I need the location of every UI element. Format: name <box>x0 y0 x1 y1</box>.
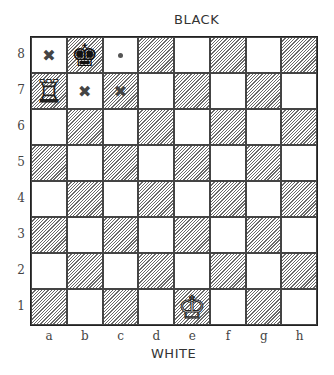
black-side-label: BLACK <box>174 12 219 27</box>
square-b2 <box>67 253 103 289</box>
square-e8 <box>174 37 210 73</box>
square-d6 <box>138 109 174 145</box>
square-f5 <box>210 145 246 181</box>
square-e2 <box>174 253 210 289</box>
rank-label-6: 6 <box>16 119 26 133</box>
square-c1 <box>103 289 139 325</box>
file-label-e: e <box>174 329 210 343</box>
square-d2 <box>138 253 174 289</box>
square-f4 <box>210 181 246 217</box>
square-c8 <box>103 37 139 73</box>
white-king-icon: ♔ <box>178 292 206 323</box>
square-g7 <box>246 73 282 109</box>
cross-marker-icon: ✖ <box>78 82 91 101</box>
square-d1 <box>138 289 174 325</box>
rank-label-5: 5 <box>16 155 26 169</box>
rank-label-2: 2 <box>16 263 26 277</box>
file-label-c: c <box>103 329 139 343</box>
file-label-f: f <box>210 329 246 343</box>
square-f1 <box>210 289 246 325</box>
square-c5 <box>103 145 139 181</box>
square-b8: ♚ <box>67 37 103 73</box>
chess-board: ✖♚♖✖✖♔ <box>30 36 318 326</box>
square-e5 <box>174 145 210 181</box>
rank-label-8: 8 <box>16 47 26 61</box>
square-c4 <box>103 181 139 217</box>
file-label-g: g <box>246 329 282 343</box>
square-h1 <box>281 289 317 325</box>
square-d4 <box>138 181 174 217</box>
square-a1 <box>31 289 67 325</box>
square-h8 <box>281 37 317 73</box>
file-label-b: b <box>67 329 103 343</box>
file-label-h: h <box>282 329 318 343</box>
cross-marker-icon: ✖ <box>42 46 55 65</box>
square-f6 <box>210 109 246 145</box>
square-a2 <box>31 253 67 289</box>
square-f3 <box>210 217 246 253</box>
square-b1 <box>67 289 103 325</box>
square-e1: ♔ <box>174 289 210 325</box>
file-label-a: a <box>31 329 67 343</box>
square-c3 <box>103 217 139 253</box>
square-g6 <box>246 109 282 145</box>
square-g1 <box>246 289 282 325</box>
square-g5 <box>246 145 282 181</box>
square-e6 <box>174 109 210 145</box>
square-h3 <box>281 217 317 253</box>
square-g2 <box>246 253 282 289</box>
square-h7 <box>281 73 317 109</box>
white-side-label: WHITE <box>151 346 196 361</box>
rank-label-7: 7 <box>16 83 26 97</box>
square-e4 <box>174 181 210 217</box>
square-h5 <box>281 145 317 181</box>
square-c6 <box>103 109 139 145</box>
square-f8 <box>210 37 246 73</box>
square-e3 <box>174 217 210 253</box>
square-b5 <box>67 145 103 181</box>
square-d8 <box>138 37 174 73</box>
square-d7 <box>138 73 174 109</box>
square-b4 <box>67 181 103 217</box>
square-h4 <box>281 181 317 217</box>
dot-marker-icon <box>118 53 123 58</box>
cross-marker-icon: ✖ <box>114 82 127 101</box>
square-b7: ✖ <box>67 73 103 109</box>
square-f2 <box>210 253 246 289</box>
square-g8 <box>246 37 282 73</box>
square-d5 <box>138 145 174 181</box>
square-c7: ✖ <box>103 73 139 109</box>
rank-label-4: 4 <box>16 191 26 205</box>
square-b3 <box>67 217 103 253</box>
rank-label-1: 1 <box>16 299 26 313</box>
square-b6 <box>67 109 103 145</box>
square-a7: ♖ <box>31 73 67 109</box>
file-label-d: d <box>138 329 174 343</box>
rank-label-3: 3 <box>16 227 26 241</box>
square-d3 <box>138 217 174 253</box>
square-e7 <box>174 73 210 109</box>
square-f7 <box>210 73 246 109</box>
square-a6 <box>31 109 67 145</box>
square-h6 <box>281 109 317 145</box>
square-a3 <box>31 217 67 253</box>
square-g3 <box>246 217 282 253</box>
square-a5 <box>31 145 67 181</box>
square-c2 <box>103 253 139 289</box>
square-a8: ✖ <box>31 37 67 73</box>
white-rook-icon: ♖ <box>35 76 63 107</box>
square-a4 <box>31 181 67 217</box>
square-g4 <box>246 181 282 217</box>
square-h2 <box>281 253 317 289</box>
black-king-icon: ♚ <box>71 40 99 71</box>
